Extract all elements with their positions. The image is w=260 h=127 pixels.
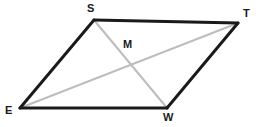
vertex-label-t: T bbox=[243, 8, 250, 19]
vertex-label-m: M bbox=[123, 39, 132, 50]
side-tw-line bbox=[167, 23, 238, 108]
vertex-label-w: W bbox=[163, 112, 173, 123]
vertex-label-s: S bbox=[87, 3, 94, 14]
side-es-line bbox=[20, 20, 94, 108]
diagonal-et-line bbox=[20, 23, 238, 108]
vertex-label-e: E bbox=[5, 105, 12, 116]
parallelogram-diagram bbox=[0, 0, 260, 127]
geometry-figure: S T E W M bbox=[0, 0, 260, 127]
side-st-line bbox=[94, 20, 238, 23]
